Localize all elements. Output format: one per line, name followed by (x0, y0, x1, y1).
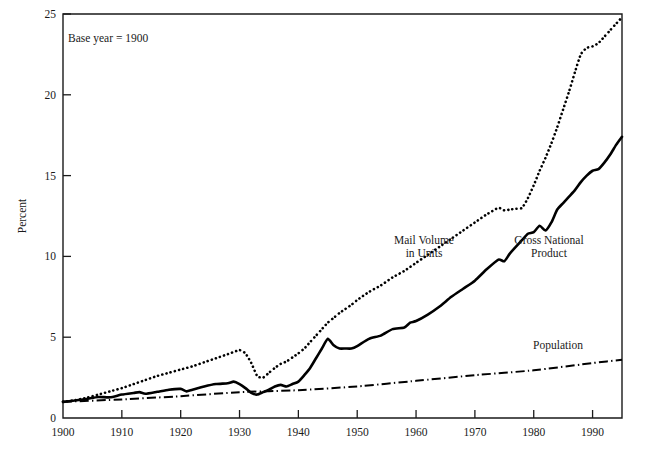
mail-volume-label-line1: Mail Volume (394, 234, 454, 246)
x-tick-label: 1900 (52, 426, 75, 438)
y-tick-label: 15 (45, 170, 57, 182)
y-tick-label: 20 (45, 89, 57, 101)
x-tick-label: 1920 (169, 426, 192, 438)
y-tick-label: 25 (45, 8, 57, 20)
mail-volume-label-line2: in Units (406, 247, 443, 259)
x-tick-label: 1950 (346, 426, 369, 438)
x-tick-label: 1960 (405, 426, 428, 438)
x-tick-label: 1930 (228, 426, 251, 438)
x-tick-label: 1970 (463, 426, 486, 438)
line-chart: 0510152025 19001910192019301940195019601… (0, 0, 650, 451)
x-tick-label: 1910 (110, 426, 133, 438)
gnp-label-line2: Product (531, 247, 568, 259)
series-label-population: Population (533, 339, 583, 352)
y-tick-label: 10 (45, 250, 57, 262)
gnp-label-line1: Gross National (514, 234, 583, 246)
x-tick-label: 1940 (287, 426, 310, 438)
y-tick-label: 0 (50, 412, 56, 424)
y-axis-title: Percent (16, 198, 28, 233)
x-tick-label: 1990 (581, 426, 604, 438)
base-year-annotation: Base year = 1900 (68, 32, 149, 45)
y-tick-label: 5 (50, 331, 56, 343)
chart-container: 0510152025 19001910192019301940195019601… (0, 0, 650, 451)
population-label: Population (533, 339, 583, 352)
chart-background (0, 0, 650, 451)
y-axis-title-group: Percent (16, 198, 28, 233)
x-tick-label: 1980 (522, 426, 545, 438)
